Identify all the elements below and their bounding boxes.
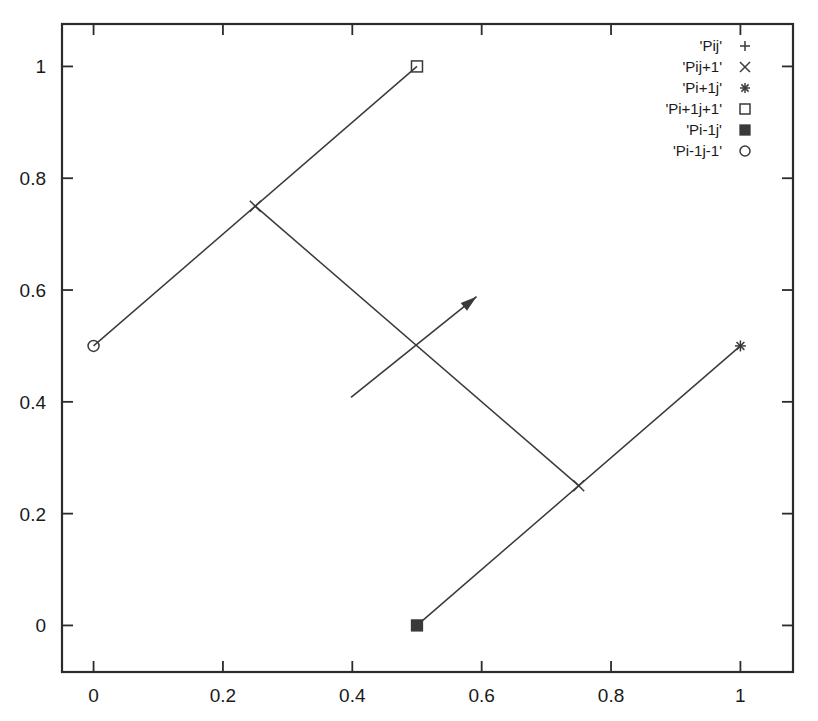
legend-label: 'Pi+1j' xyxy=(683,79,723,96)
y-axis-tick-label: 0.2 xyxy=(20,504,46,525)
x-axis-tick-label: 0 xyxy=(88,685,99,706)
y-axis-tick-label: 0.8 xyxy=(20,168,46,189)
legend-label: 'Pij' xyxy=(700,37,723,54)
direction-arrow-head xyxy=(461,297,477,311)
legend-label: 'Pi-1j-1' xyxy=(673,142,722,159)
direction-arrow xyxy=(351,297,476,398)
y-axis-tick-label: 0.6 xyxy=(20,280,46,301)
legend-marker-filled-square xyxy=(740,125,750,135)
data-point-marker xyxy=(411,620,422,631)
y-axis-tick-label: 0 xyxy=(35,615,46,636)
x-axis-tick-label: 1 xyxy=(735,685,746,706)
y-axis-tick-label: 0.4 xyxy=(20,392,47,413)
legend-marker-open-square xyxy=(740,104,750,114)
gnuplot-figure: 00.20.40.60.8100.20.40.60.81'Pij''Pij+1'… xyxy=(0,0,818,721)
legend-label: 'Pij+1' xyxy=(683,58,723,75)
legend-label: 'Pi-1j' xyxy=(686,121,722,138)
x-axis-tick-label: 0.6 xyxy=(468,685,494,706)
x-axis-tick-label: 0.8 xyxy=(598,685,624,706)
x-axis-tick-label: 0.2 xyxy=(210,685,236,706)
chart-page: 00.20.40.60.8100.20.40.60.81'Pij''Pij+1'… xyxy=(0,0,818,721)
line-cross-diagonal xyxy=(255,206,578,486)
plot-frame xyxy=(62,24,793,672)
legend-marker-open-circle xyxy=(740,146,750,156)
x-axis-tick-label: 0.4 xyxy=(339,685,366,706)
legend-label: 'Pi+1j+1' xyxy=(665,100,722,117)
y-axis-tick-label: 1 xyxy=(35,56,46,77)
